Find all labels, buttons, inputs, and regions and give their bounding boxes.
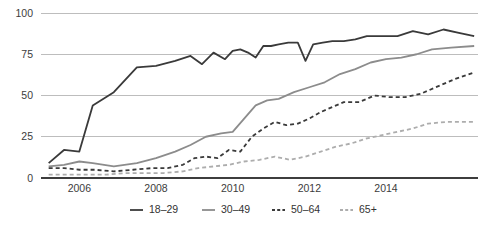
y-tick-label: 0 xyxy=(27,172,33,184)
chart-container: 0255075100 20062008201020122014 18–2930–… xyxy=(0,0,482,225)
x-tick-label: 2010 xyxy=(221,182,245,194)
y-tick-label: 75 xyxy=(21,48,33,60)
legend-label-30-49[interactable]: 30–49 xyxy=(221,203,250,215)
legend-label-65+[interactable]: 65+ xyxy=(359,203,377,215)
line-chart: 0255075100 20062008201020122014 18–2930–… xyxy=(0,0,482,225)
x-tick-label: 2008 xyxy=(144,182,168,194)
x-tick-label: 2012 xyxy=(298,182,322,194)
x-tick-label: 2006 xyxy=(68,182,92,194)
y-tick-label: 25 xyxy=(21,130,33,142)
y-tick-label: 100 xyxy=(15,7,33,19)
y-tick-label: 50 xyxy=(21,89,33,101)
x-tick-label: 2014 xyxy=(374,182,398,194)
legend-label-50-64[interactable]: 50–64 xyxy=(291,203,320,215)
legend-label-18-29[interactable]: 18–29 xyxy=(149,203,178,215)
